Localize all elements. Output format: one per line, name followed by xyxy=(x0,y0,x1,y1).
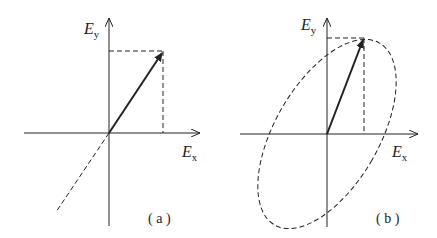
panel-caption: ( a ) xyxy=(148,211,171,227)
panel-caption: ( b ) xyxy=(376,211,400,227)
panel-b: Ey Ex ( b ) xyxy=(229,16,424,238)
y-axis-label: Ey xyxy=(300,16,317,36)
extension-line xyxy=(56,133,109,212)
field-vector-arrow xyxy=(109,53,162,133)
polarization-diagram: Ey Ex ( a ) Ey Ex ( b ) xyxy=(0,0,437,238)
y-axis-label: Ey xyxy=(83,20,100,40)
panel-a: Ey Ex ( a ) xyxy=(24,18,200,227)
x-axis-label: Ex xyxy=(391,143,408,163)
field-vector-arrow xyxy=(327,40,363,134)
x-axis-label: Ex xyxy=(181,143,198,163)
